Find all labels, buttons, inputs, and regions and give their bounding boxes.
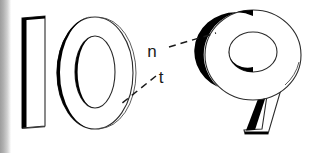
digit-nine-glyph [194,10,301,134]
figure-canvas: n t [0,0,317,153]
digit-zero-glyph [57,16,136,129]
annotation-label-t: t [159,68,164,87]
annotation-label-n: n [147,42,156,61]
digit-one-left-shadow [22,18,27,128]
numeral-diagram: n t [0,0,317,153]
digit-nine-foot [245,131,268,134]
digit-one-glyph [22,16,45,129]
